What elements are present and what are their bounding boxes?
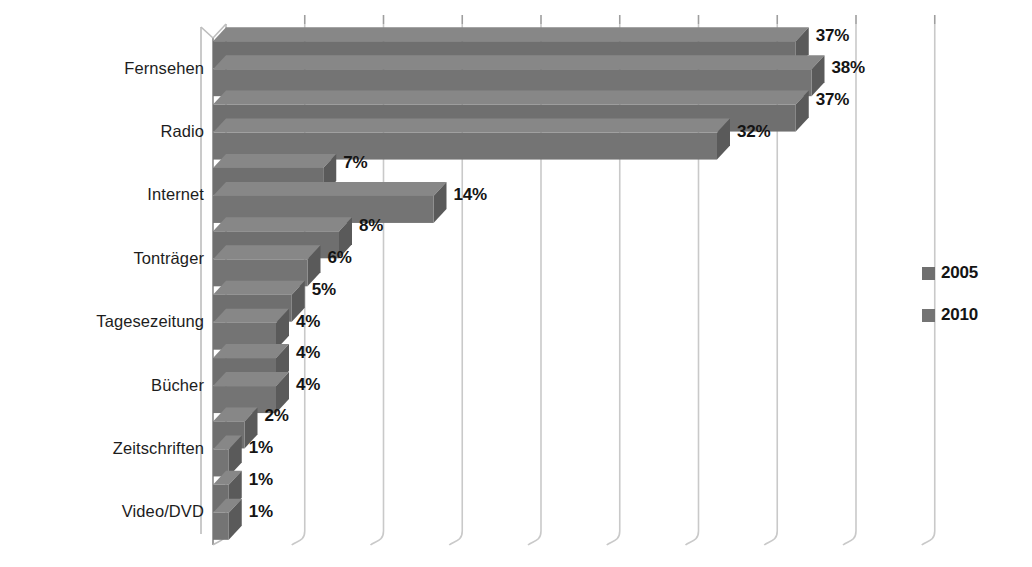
bar-top-face: [213, 309, 289, 323]
value-label: 4%: [296, 343, 320, 363]
bar-2010-7: [213, 513, 229, 540]
chart-legend: 2005 2010: [922, 252, 1026, 336]
bar-top-face: [213, 119, 730, 133]
bar-top-face: [213, 372, 289, 386]
value-label: 4%: [296, 312, 320, 332]
value-label: 37%: [816, 90, 849, 110]
value-label: 14%: [454, 185, 487, 205]
bar-top-face: [213, 217, 352, 231]
value-label: 38%: [832, 58, 865, 78]
value-label: 7%: [343, 153, 367, 173]
category-label-4: Tagesezeitung: [96, 312, 204, 331]
legend-swatch-2010: [922, 309, 935, 322]
legend-item-2005[interactable]: 2005: [922, 252, 1026, 294]
bar-top-face: [213, 91, 809, 105]
bar-top-face: [213, 154, 336, 168]
value-label: 32%: [737, 122, 770, 142]
value-label: 5%: [312, 280, 336, 300]
legend-label-2005: 2005: [941, 263, 978, 283]
bar-top-face: [213, 245, 321, 259]
category-label-2: Internet: [147, 185, 204, 204]
category-label-3: Tonträger: [133, 249, 204, 268]
value-label: 1%: [249, 438, 273, 458]
bar-chart: FernsehenRadioInternetTonträgerTagesezei…: [0, 0, 1032, 567]
value-label: 1%: [249, 502, 273, 522]
value-label: 8%: [359, 216, 383, 236]
bar-top-face: [213, 344, 289, 358]
category-label-6: Zeitschriften: [113, 439, 204, 458]
value-label: 2%: [265, 406, 289, 426]
bar-top-face: [213, 27, 809, 41]
value-label: 6%: [328, 248, 352, 268]
legend-swatch-2005: [922, 267, 935, 280]
value-label: 4%: [296, 375, 320, 395]
bar-top-face: [213, 182, 447, 196]
legend-label-2010: 2010: [941, 305, 978, 325]
value-label: 37%: [816, 26, 849, 46]
bar-top-face: [213, 55, 825, 69]
chart-canvas: [0, 0, 1032, 567]
category-label-1: Radio: [160, 122, 204, 141]
bar-top-face: [213, 281, 305, 295]
plot-area: [0, 0, 1032, 567]
category-label-0: Fernsehen: [124, 59, 204, 78]
category-label-5: Bücher: [151, 376, 204, 395]
category-label-7: Video/DVD: [122, 502, 204, 521]
legend-item-2010[interactable]: 2010: [922, 294, 1026, 336]
value-label: 1%: [249, 470, 273, 490]
